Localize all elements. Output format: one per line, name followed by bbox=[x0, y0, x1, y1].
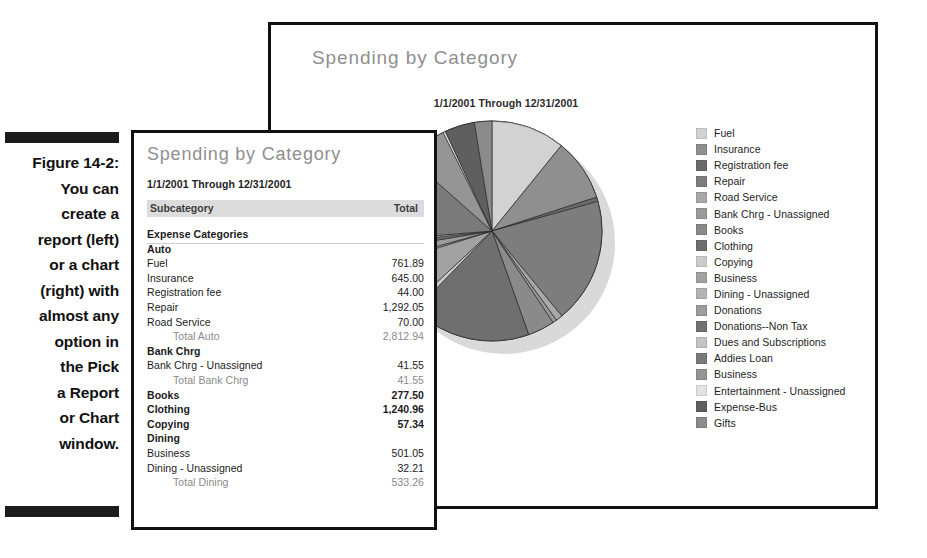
report-row-value: 32.21 bbox=[397, 462, 424, 474]
report-row-label: Dining - Unassigned bbox=[147, 462, 243, 474]
legend-swatch bbox=[696, 401, 707, 412]
legend-item: Clothing bbox=[696, 238, 876, 254]
report-row-label: Registration fee bbox=[147, 286, 221, 298]
legend-label: Bank Chrg - Unassigned bbox=[714, 208, 830, 220]
caption-line: option in bbox=[0, 329, 119, 355]
legend-label: Donations--Non Tax bbox=[714, 320, 808, 332]
legend-item: Gifts bbox=[696, 415, 876, 431]
column-header-total: Total bbox=[394, 202, 418, 214]
legend-label: Business bbox=[714, 368, 757, 380]
legend-label: Addies Loan bbox=[714, 352, 773, 364]
report-row: Insurance645.00 bbox=[147, 272, 424, 287]
report-row: Bank Chrg - Unassigned41.55 bbox=[147, 359, 424, 374]
caption-rule-bottom bbox=[5, 506, 119, 517]
chart-title: Spending by Category bbox=[312, 47, 518, 69]
legend-item: Fuel bbox=[696, 125, 876, 141]
legend-item: Bank Chrg - Unassigned bbox=[696, 205, 876, 221]
report-row: Total Bank Chrg41.55 bbox=[147, 374, 424, 389]
section-divider bbox=[147, 243, 424, 244]
legend-item: Registration fee bbox=[696, 157, 876, 173]
legend-swatch bbox=[696, 144, 707, 155]
legend-item: Business bbox=[696, 366, 876, 382]
legend-swatch bbox=[696, 128, 707, 139]
legend-swatch bbox=[696, 192, 707, 203]
report-row-value: 501.05 bbox=[392, 447, 424, 459]
report-window: Spending by Category 1/1/2001 Through 12… bbox=[131, 130, 437, 530]
report-row-label: Total Dining bbox=[147, 476, 228, 488]
legend-label: Books bbox=[714, 224, 743, 236]
report-row-value: 645.00 bbox=[392, 272, 424, 284]
report-row-label: Total Bank Chrg bbox=[147, 374, 248, 386]
caption-line: a Report bbox=[0, 380, 119, 406]
report-row-value: 44.00 bbox=[397, 286, 424, 298]
caption-rule-top bbox=[5, 132, 119, 143]
legend-label: Fuel bbox=[714, 127, 735, 139]
report-row-value: 761.89 bbox=[392, 257, 424, 269]
legend-swatch bbox=[696, 256, 707, 267]
caption-line: window. bbox=[0, 431, 119, 457]
report-row-label: Auto bbox=[147, 243, 171, 255]
legend-swatch bbox=[696, 385, 707, 396]
report-row: Books277.50 bbox=[147, 389, 424, 404]
legend-label: Road Service bbox=[714, 191, 778, 203]
caption-line: Figure 14-2: bbox=[0, 150, 119, 176]
legend-swatch bbox=[696, 417, 707, 428]
legend-item: Expense-Bus bbox=[696, 399, 876, 415]
report-row-value: 57.34 bbox=[397, 418, 424, 430]
legend-label: Business bbox=[714, 272, 757, 284]
legend-label: Clothing bbox=[714, 240, 753, 252]
report-row: Repair1,292.05 bbox=[147, 301, 424, 316]
report-row-label: Books bbox=[147, 389, 179, 401]
legend-item: Entertainment - Unassigned bbox=[696, 383, 876, 399]
report-row-value: 1,292.05 bbox=[383, 301, 424, 313]
legend-item: Business bbox=[696, 270, 876, 286]
caption-line: or a chart bbox=[0, 252, 119, 278]
report-row: Total Auto2,812.94 bbox=[147, 330, 424, 345]
caption-line: You can bbox=[0, 176, 119, 202]
legend-swatch bbox=[696, 337, 707, 348]
report-title: Spending by Category bbox=[147, 144, 341, 165]
caption-line: create a bbox=[0, 201, 119, 227]
caption-line: or Chart bbox=[0, 405, 119, 431]
legend-swatch bbox=[696, 176, 707, 187]
report-row: Copying57.34 bbox=[147, 418, 424, 433]
legend-item: Addies Loan bbox=[696, 350, 876, 366]
legend-item: Donations--Non Tax bbox=[696, 318, 876, 334]
legend-label: Dining - Unassigned bbox=[714, 288, 810, 300]
report-row: Road Service70.00 bbox=[147, 316, 424, 331]
legend-label: Donations bbox=[714, 304, 762, 316]
report-column-header: Subcategory Total bbox=[147, 200, 424, 217]
report-row: Registration fee44.00 bbox=[147, 286, 424, 301]
legend-item: Repair bbox=[696, 173, 876, 189]
legend-label: Gifts bbox=[714, 417, 736, 429]
report-row: Total Dining533.26 bbox=[147, 476, 424, 491]
report-row-value: 277.50 bbox=[392, 389, 424, 401]
report-row-label: Clothing bbox=[147, 403, 190, 415]
legend-swatch bbox=[696, 321, 707, 332]
legend-swatch bbox=[696, 208, 707, 219]
figure-caption-text: Figure 14-2:You cancreate areport (left)… bbox=[0, 150, 119, 456]
figure-caption-block: Figure 14-2:You cancreate areport (left)… bbox=[0, 128, 124, 528]
report-row: Expense Categories bbox=[147, 228, 424, 243]
report-row-value: 70.00 bbox=[397, 316, 424, 328]
report-row-label: Bank Chrg - Unassigned bbox=[147, 359, 263, 371]
report-row-label: Bank Chrg bbox=[147, 345, 201, 357]
report-row-value: 41.55 bbox=[397, 374, 424, 386]
legend-item: Dues and Subscriptions bbox=[696, 334, 876, 350]
legend-swatch bbox=[696, 240, 707, 251]
legend-swatch bbox=[696, 353, 707, 364]
legend-item: Donations bbox=[696, 302, 876, 318]
legend-label: Copying bbox=[714, 256, 753, 268]
report-date-range: 1/1/2001 Through 12/31/2001 bbox=[147, 178, 292, 190]
report-row: Bank Chrg bbox=[147, 345, 424, 360]
report-row: Fuel761.89 bbox=[147, 257, 424, 272]
report-row-label: Business bbox=[147, 447, 190, 459]
legend-swatch bbox=[696, 160, 707, 171]
legend-label: Expense-Bus bbox=[714, 401, 777, 413]
legend-item: Copying bbox=[696, 254, 876, 270]
report-row: Auto bbox=[147, 243, 424, 258]
report-row-label: Total Auto bbox=[147, 330, 220, 342]
legend-label: Insurance bbox=[714, 143, 761, 155]
legend-label: Dues and Subscriptions bbox=[714, 336, 826, 348]
chart-legend: FuelInsuranceRegistration feeRepairRoad … bbox=[696, 125, 876, 431]
